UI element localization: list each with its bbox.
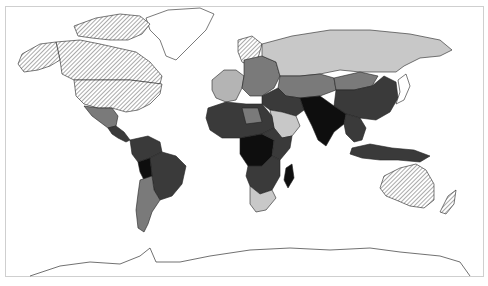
region-australia[interactable] xyxy=(380,164,434,208)
region-russia[interactable] xyxy=(262,30,452,76)
region-north-africa[interactable] xyxy=(206,102,274,138)
region-central-america[interactable] xyxy=(108,126,130,142)
region-indonesia[interactable] xyxy=(350,144,430,162)
region-central-asia[interactable] xyxy=(278,74,336,98)
region-new-zealand[interactable] xyxy=(440,190,456,214)
region-madagascar[interactable] xyxy=(284,164,294,188)
region-western-europe[interactable] xyxy=(212,70,244,102)
region-japan[interactable] xyxy=(396,74,410,104)
region-canadian-arctic-islands[interactable] xyxy=(74,14,150,40)
region-canada[interactable] xyxy=(56,40,162,84)
region-mexico[interactable] xyxy=(84,106,118,128)
world-map[interactable] xyxy=(0,0,488,286)
region-alaska[interactable] xyxy=(18,42,60,72)
region-antarctica[interactable] xyxy=(30,248,470,276)
region-greenland[interactable] xyxy=(146,8,214,60)
